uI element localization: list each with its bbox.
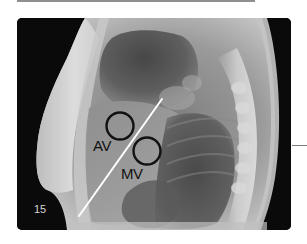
valve-plane-line [79, 99, 162, 216]
figure-number: 15 [34, 204, 46, 215]
previous-figure-edge [17, 0, 255, 2]
mitral-valve-label: MV [121, 166, 143, 181]
xray-figure: AV MV 15 [17, 18, 291, 230]
aortic-valve-label: AV [93, 138, 111, 153]
mitral-valve-circle [134, 138, 161, 165]
aortic-valve-circle [107, 113, 134, 140]
leader-line [292, 145, 307, 146]
annotation-overlay [17, 18, 291, 230]
